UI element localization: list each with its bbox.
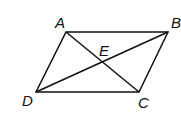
label-c: C <box>138 94 149 111</box>
label-d: D <box>22 92 33 109</box>
diagonal-bd <box>36 32 168 92</box>
parallelogram-diagram: A B E D C <box>0 0 181 120</box>
label-a: A <box>54 14 65 31</box>
label-e: E <box>99 42 110 59</box>
label-b: B <box>171 14 181 31</box>
